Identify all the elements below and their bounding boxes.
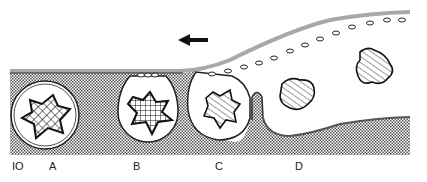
stage-label-a: A (49, 160, 56, 172)
figure-number: IO (12, 160, 24, 172)
stage-label-d: D (295, 160, 303, 172)
cell-membrane (10, 12, 410, 71)
membrane-vesicles-b (138, 73, 159, 77)
vesicle-b (118, 73, 178, 142)
phagocytosis-diagram (0, 0, 427, 182)
stage-label-b: B (133, 160, 140, 172)
particle-d1 (280, 79, 314, 110)
stage-label-c: C (215, 160, 223, 172)
particle-d2 (356, 48, 392, 83)
vesicle-a (11, 81, 79, 149)
vesicle-c (188, 72, 250, 140)
left-arrow-icon (178, 34, 208, 46)
